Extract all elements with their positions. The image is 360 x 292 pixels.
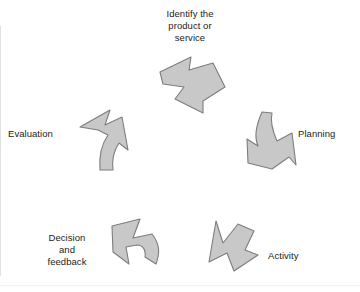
arrow-planning [247,112,296,169]
arrow-decision [112,219,159,264]
stage-label-activity: Activity [268,250,330,262]
arrow-evaluation [80,110,128,170]
stage-label-identify: Identify the product or service [140,8,240,44]
stage-label-evaluation: Evaluation [8,128,80,140]
stage-label-decision: Decision and feedback [28,232,106,268]
arrow-identify [160,57,225,113]
arrow-activity [209,221,258,271]
stage-label-planning: Planning [298,128,358,140]
cycle-diagram: Identify the product or service Planning… [0,0,360,292]
